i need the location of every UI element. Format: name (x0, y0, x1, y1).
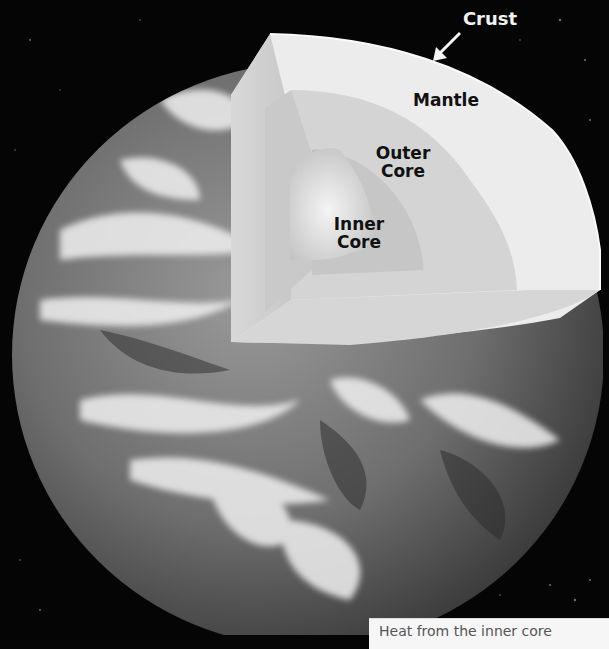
cutaway-wedge (231, 34, 600, 345)
label-inner-core-line2: Core (324, 234, 394, 252)
caption-box: Heat from the inner core (369, 618, 609, 649)
label-outer-core-line2: Core (368, 163, 438, 181)
crust-arrow-icon (433, 33, 460, 61)
label-outer-core: Outer Core (368, 145, 438, 181)
label-crust: Crust (460, 10, 520, 29)
label-inner-core: Inner Core (324, 216, 394, 252)
label-mantle: Mantle (406, 92, 486, 110)
caption-text: Heat from the inner core (379, 623, 552, 639)
